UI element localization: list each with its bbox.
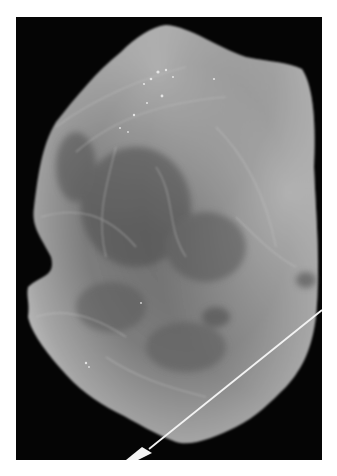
radiograph-image bbox=[16, 17, 322, 460]
radiograph-frame bbox=[16, 17, 322, 460]
